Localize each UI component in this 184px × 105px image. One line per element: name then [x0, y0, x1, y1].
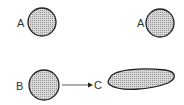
- label-c: C: [94, 80, 102, 91]
- diagram: [0, 0, 184, 105]
- arrow-head-icon: [88, 83, 93, 88]
- circle-a-left: [28, 8, 56, 36]
- label-b: B: [16, 81, 23, 92]
- label-a-left: A: [17, 18, 24, 29]
- ellipse-c: [108, 69, 174, 89]
- label-a-right: A: [137, 18, 144, 29]
- circle-a-right: [146, 9, 174, 37]
- circle-b: [29, 70, 59, 100]
